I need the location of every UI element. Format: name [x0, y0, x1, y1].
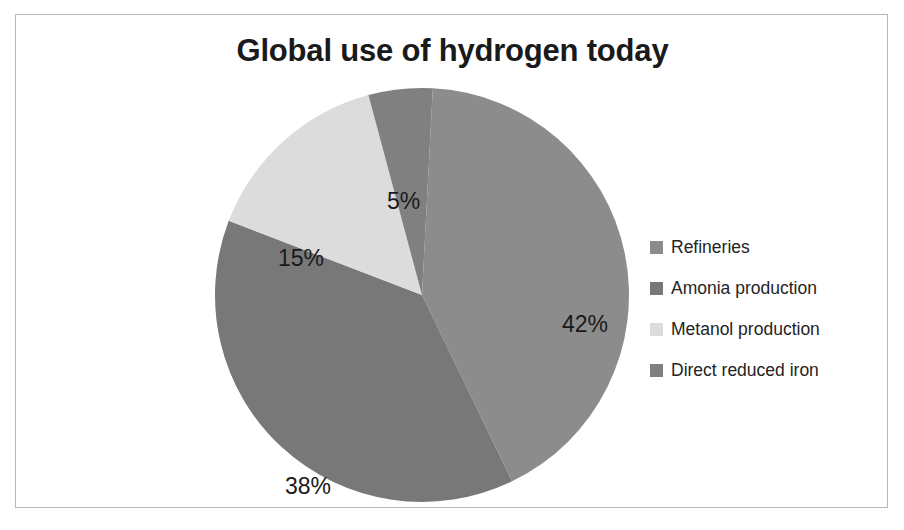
legend-color-swatch-icon — [650, 241, 663, 254]
legend-item-label: Direct reduced iron — [671, 360, 819, 381]
legend-item-label: Refineries — [671, 237, 750, 258]
pie-slice-group — [215, 88, 629, 502]
legend-color-swatch-icon — [650, 364, 663, 377]
legend-color-swatch-icon — [650, 282, 663, 295]
legend-item-label: Metanol production — [671, 319, 820, 340]
legend-item[interactable]: Direct reduced iron — [650, 350, 886, 391]
legend-item-label: Amonia production — [671, 278, 817, 299]
legend-item[interactable]: Metanol production — [650, 309, 886, 350]
legend-color-swatch-icon — [650, 323, 663, 336]
chart-legend: RefineriesAmonia productionMetanol produ… — [650, 227, 886, 391]
legend-item[interactable]: Amonia production — [650, 268, 886, 309]
chart-frame: Global use of hydrogen today 42%38%15%5%… — [15, 14, 888, 508]
legend-item[interactable]: Refineries — [650, 227, 886, 268]
pie-chart-graphic — [210, 83, 634, 507]
